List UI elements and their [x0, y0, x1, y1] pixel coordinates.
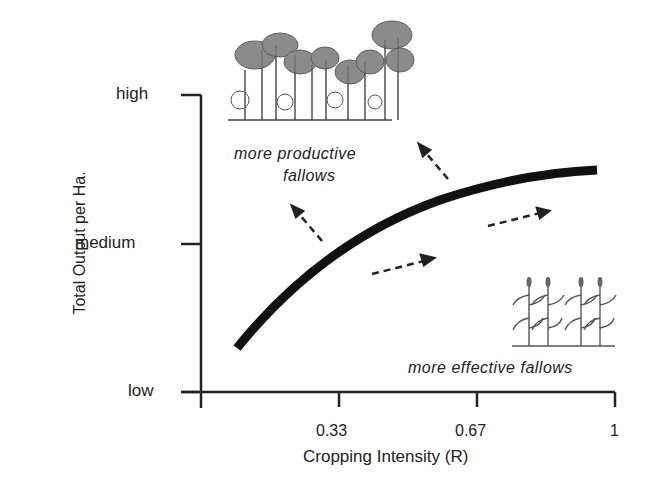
y-tick-low: low [128, 381, 154, 401]
arrow-right-1 [372, 255, 434, 274]
x-tick-0-67: 0.67 [455, 422, 486, 440]
arrow-up-left-2 [419, 144, 448, 179]
x-axis [181, 392, 615, 407]
arrow-up-left-1 [292, 206, 322, 241]
x-axis-label: Cropping Intensity (R) [303, 447, 468, 467]
y-tick-high: high [116, 84, 148, 104]
arrow-right-2 [488, 208, 549, 226]
annotation-more-effective-fallows: more effective fallows [408, 359, 573, 377]
forest-illustration-icon [228, 21, 414, 120]
y-axis [181, 95, 201, 408]
annotation-fallows: fallows [283, 167, 335, 185]
y-tick-medium: medium [75, 233, 135, 253]
output-curve [237, 170, 597, 348]
x-tick-1: 1 [610, 422, 619, 440]
x-tick-0-33: 0.33 [316, 422, 347, 440]
annotation-more-productive: more productive [234, 145, 356, 163]
maize-crop-illustration-icon [512, 277, 616, 346]
